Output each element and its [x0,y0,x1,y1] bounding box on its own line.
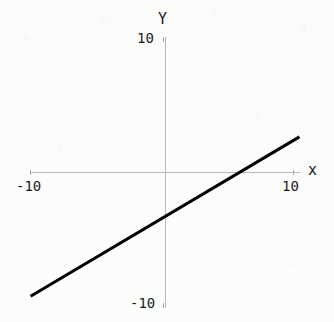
y-axis-label: Y [158,12,167,26]
x-axis-line [30,172,300,173]
x-axis-label: x [308,163,317,177]
cartesian-plot: Y x 10 -10 -10 10 [0,0,334,322]
paper-texture-overlay [0,0,334,322]
y-axis-tick-min [163,303,164,308]
x-axis-tick-label-min: -10 [16,179,41,193]
x-axis-tick-label-max: 10 [282,179,299,193]
x-axis-tick-min [30,170,31,175]
y-axis-tick-max [163,37,164,42]
y-axis-tick-label-min: -10 [130,296,155,310]
y-axis-tick-label-max: 10 [137,31,154,45]
data-line-layer [0,0,334,322]
x-axis-tick-max [293,170,294,175]
